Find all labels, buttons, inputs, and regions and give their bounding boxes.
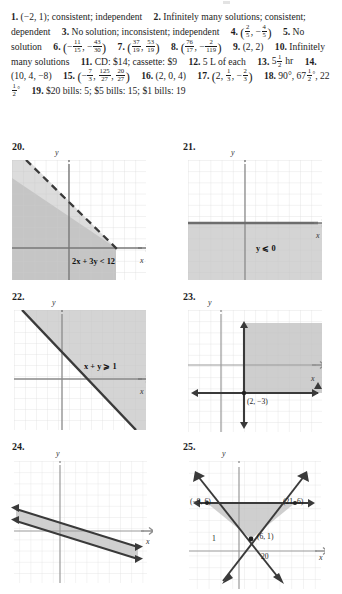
answer-number: 19.: [32, 85, 44, 96]
answer-body-13: 512 hr: [272, 55, 294, 66]
answer-number: 12.: [188, 55, 200, 66]
point-label-23: (2, −3): [247, 397, 268, 406]
graph-cell-20: 20.: [0, 141, 171, 291]
graph-number-24: 24.: [12, 441, 25, 452]
vertex-label-bottom-25: (6, 1): [257, 532, 273, 541]
graph-plot-25: [185, 461, 325, 589]
answer-number: 6.: [53, 41, 60, 52]
y-axis-label-21: y: [231, 148, 235, 157]
graph-number-22: 22.: [12, 291, 25, 302]
answer-body-6: (−1115, −4330): [63, 41, 106, 52]
answer-number: 15.: [63, 70, 75, 81]
answer-number: 2.: [154, 11, 161, 22]
graph-plot-22: [14, 310, 146, 430]
answer-number: 4.: [231, 26, 238, 37]
answer-body-19: $20 bills: 5; $5 bills: 15; $1 bills: 19: [46, 85, 186, 96]
answer-number: 9.: [233, 41, 240, 52]
answer-body-7: (3719, 5319): [127, 41, 159, 52]
answer-number: 10.: [275, 41, 287, 52]
answer-body-12: 5 L of each: [203, 55, 246, 66]
y-axis-label-24: y: [56, 449, 60, 458]
graph-grid: 20.: [0, 141, 342, 594]
answer-body-11: CD: $14; cassette: $9: [95, 55, 177, 66]
answer-number: 7.: [118, 41, 125, 52]
graph-cell-23: 23.: [171, 291, 342, 441]
answer-body-4: (25, −45): [240, 26, 271, 37]
graph-plot-24: [8, 461, 153, 583]
x-scale-label-25: 20: [261, 552, 269, 561]
y-axis-label-23: y: [208, 298, 212, 307]
answer-number: 3.: [62, 26, 69, 37]
answer-body-8: (7617, −2119): [181, 41, 222, 52]
answer-body-1: (−2, 1); consistent; independent: [21, 11, 143, 22]
y-scale-label-25: 1: [212, 534, 216, 543]
x-axis-label-24: x: [146, 537, 150, 546]
graph-svg-25: [185, 461, 325, 589]
answer-number: 17.: [197, 70, 209, 81]
y-axis-label-22: y: [52, 298, 56, 307]
answer-number: 14.: [305, 55, 317, 66]
answer-body-14: (10, 4, −8): [11, 70, 52, 81]
answer-number: 5.: [283, 26, 290, 37]
graph-plot-21: [188, 160, 322, 280]
graph-number-23: 23.: [183, 291, 196, 302]
graph-cell-25: 25.: [171, 441, 342, 594]
x-axis-arrow-24: [141, 524, 153, 538]
vertex-label-right-25: (21, 6): [283, 497, 303, 506]
answer-body-17: (2, 13, −23): [212, 70, 253, 81]
graph-row-2: 22.: [0, 291, 342, 441]
graph-cell-24: 24.: [0, 441, 171, 594]
y-axis-arrow-22: [55, 310, 71, 316]
x-axis-arrow-22: [138, 372, 146, 386]
x-axis-label-22: x: [140, 387, 144, 396]
y-axis-label-25: y: [222, 449, 226, 458]
vertex-label-left-25: (−9, 6): [190, 497, 211, 506]
answer-body-15: (−73, 12527, 2027): [77, 70, 129, 81]
graph-number-20: 20.: [12, 141, 25, 152]
graph-svg-21: [188, 160, 322, 280]
inequality-label-21: y ⩽ 0: [256, 243, 276, 253]
answer-number: 13.: [257, 55, 269, 66]
graph-cell-22: 22.: [0, 291, 171, 441]
graph-svg-22: [14, 310, 146, 430]
answer-body-9: (2, 2): [243, 41, 264, 52]
answer-number: 18.: [264, 70, 276, 81]
inequality-label-20: 2x + 3y < 12: [72, 257, 115, 266]
x-axis-label-20: x: [140, 256, 144, 265]
x-axis-label-25: x: [319, 553, 323, 562]
graph-row-1: 20.: [0, 141, 342, 291]
answer-body-3: No solution; inconsistent; independent: [71, 26, 219, 37]
answer-number: 11.: [81, 55, 92, 66]
answer-key-text: 1. (−2, 1); consistent; independent 2. I…: [11, 10, 333, 98]
x-axis-arrow-23: [312, 358, 322, 372]
inequality-label-22: x + y ⩾ 1: [84, 361, 117, 371]
x-axis-arrow-21: [314, 216, 322, 230]
page-top-artifact: [223, 1, 230, 4]
graph-number-21: 21.: [183, 141, 196, 152]
y-axis-label-20: y: [55, 148, 59, 157]
graph-cell-21: 21.: [171, 141, 342, 291]
graph-row-3: 24.: [0, 441, 342, 594]
graph-svg-24: [8, 461, 153, 583]
y-axis-arrow-23: [214, 310, 230, 316]
y-axis-arrow-25: [232, 461, 248, 467]
x-axis-arrow-20: [138, 241, 146, 255]
graph-svg-23: [188, 310, 322, 432]
answer-body-16: (2, 0, 4): [156, 70, 186, 81]
answer-number: 8.: [171, 41, 178, 52]
x-axis-label-21: x: [316, 231, 320, 240]
graph-plot-23: [188, 310, 322, 432]
y-axis-arrow-21: [238, 160, 254, 166]
answer-number: 1.: [11, 11, 18, 22]
graph-number-25: 25.: [183, 441, 196, 452]
answer-number: 16.: [141, 70, 153, 81]
y-axis-arrow-20: [62, 160, 78, 166]
x-axis-label-23: x: [311, 374, 315, 383]
y-axis-arrow-24: [53, 461, 69, 467]
